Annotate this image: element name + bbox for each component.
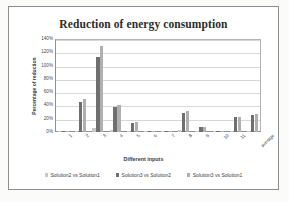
x-axis-tick: 1 <box>67 133 72 138</box>
bar-group <box>72 39 89 132</box>
bar-group <box>210 39 227 132</box>
bar <box>113 107 116 132</box>
y-axis-tick: 100% <box>13 63 53 68</box>
x-axis-tick: 2 <box>85 133 90 138</box>
bar-group <box>55 39 72 132</box>
y-axis-tick: 80% <box>13 77 53 82</box>
x-axis-tick: 9 <box>205 133 210 138</box>
bar <box>161 131 164 132</box>
x-axis-tick: average <box>260 133 275 148</box>
scanned-page: Reduction of energy consumption Percenta… <box>0 0 289 202</box>
bar <box>234 117 237 132</box>
bar-group <box>89 39 106 132</box>
bar <box>135 122 138 132</box>
x-axis-tick: 3 <box>102 133 107 138</box>
bar-group <box>124 39 141 132</box>
bar <box>144 131 147 132</box>
bar-group <box>192 39 209 132</box>
x-axis-tick: 8 <box>188 133 193 138</box>
bar-series-container <box>55 39 261 132</box>
y-axis-tick: 20% <box>13 116 53 121</box>
bar <box>92 128 95 132</box>
bar <box>100 46 103 132</box>
bar <box>178 130 181 132</box>
x-axis-tick: 7 <box>170 133 175 138</box>
bar <box>203 127 206 132</box>
x-axis-tick: 5 <box>136 133 141 138</box>
bar-group <box>107 39 124 132</box>
bar <box>58 131 61 132</box>
bar <box>66 131 69 132</box>
bar-group <box>141 39 158 132</box>
legend-label: Solution2 vs Solution1 <box>50 172 99 178</box>
x-axis-tick: 10 <box>223 133 230 140</box>
bar <box>131 123 134 132</box>
legend-swatch <box>45 173 48 176</box>
y-axis-tick: 140% <box>13 37 53 42</box>
y-axis-tick: 60% <box>13 90 53 95</box>
bar-group <box>158 39 175 132</box>
bar <box>79 102 82 132</box>
x-axis-tick: 4 <box>119 133 124 138</box>
bar <box>247 131 250 132</box>
legend-swatch <box>187 173 190 176</box>
y-axis-tick: 0% <box>13 130 53 135</box>
bar-group <box>175 39 192 132</box>
bar <box>62 131 65 132</box>
y-axis-tick: 40% <box>13 103 53 108</box>
bar <box>110 130 113 132</box>
bar <box>255 114 258 132</box>
bar <box>220 131 223 132</box>
legend-label: Solution3 vs Solution1 <box>193 172 242 178</box>
chart-figure: Reduction of energy consumption Percenta… <box>8 6 279 190</box>
bar <box>251 115 254 132</box>
x-axis-title: Different inputs <box>8 156 279 162</box>
bar <box>75 131 78 132</box>
chart-legend: Solution2 vs Solution1Solution3 vs Solut… <box>8 172 279 178</box>
y-axis-tick-labels: 0%20%40%60%80%100%120%140% <box>11 39 53 132</box>
bar-group <box>227 39 244 132</box>
bar <box>182 113 185 132</box>
legend-item[interactable]: Solution3 vs Solution1 <box>187 172 242 178</box>
bar <box>230 131 233 132</box>
y-axis-tick: 120% <box>13 50 53 55</box>
bar <box>213 131 216 132</box>
bar <box>195 131 198 132</box>
x-axis-tick: 11 <box>240 133 247 140</box>
bar <box>199 127 202 132</box>
bar <box>169 131 172 132</box>
bar <box>186 111 189 132</box>
bar <box>127 131 130 132</box>
chart-title: Reduction of energy consumption <box>8 18 279 30</box>
bar <box>165 131 168 132</box>
bar <box>117 105 120 132</box>
legend-item[interactable]: Solution2 vs Solution1 <box>45 172 100 178</box>
legend-item[interactable]: Solution3 vs Solution2 <box>116 172 171 178</box>
legend-swatch <box>116 173 119 176</box>
bar <box>148 131 151 132</box>
bar-group <box>244 39 261 132</box>
legend-label: Solution3 vs Solution2 <box>122 172 171 178</box>
bar <box>216 131 219 132</box>
bar <box>238 117 241 132</box>
bar <box>96 57 99 132</box>
bar <box>83 99 86 132</box>
x-axis-tick: 6 <box>153 133 158 138</box>
